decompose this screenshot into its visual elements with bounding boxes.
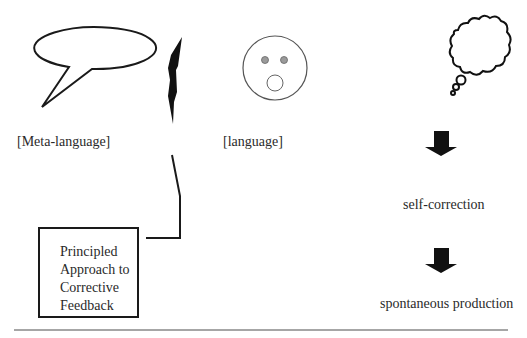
down-arrow-icon	[425, 248, 457, 273]
down-arrow-icon	[425, 131, 457, 156]
thought-cloud-icon	[450, 16, 511, 95]
surprised-face-icon	[243, 36, 307, 100]
mouth	[267, 75, 283, 91]
box-line-1: Principled	[60, 243, 130, 261]
speech-bubble-icon	[34, 27, 156, 107]
connector-line	[146, 155, 180, 238]
box-line-3: Corrective	[60, 279, 130, 297]
box-line-2: Approach to	[60, 261, 130, 279]
meta-language-label: [Meta-language]	[17, 134, 110, 150]
left-eye	[262, 57, 269, 64]
spontaneous-production-label: spontaneous production	[380, 296, 513, 312]
right-eye	[281, 57, 288, 64]
self-correction-label: self-correction	[403, 197, 485, 213]
principled-approach-box: Principled Approach to Corrective Feedba…	[38, 227, 139, 318]
box-text: Principled Approach to Corrective Feedba…	[60, 243, 130, 315]
language-label: [language]	[223, 134, 283, 150]
box-line-4: Feedback	[60, 297, 130, 315]
lightning-bolt-icon	[168, 37, 182, 124]
